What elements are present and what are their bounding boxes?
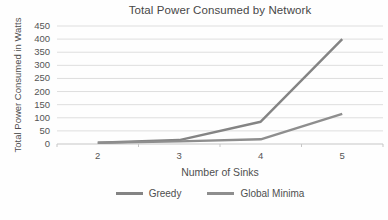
y-tick-label: 0 [22, 138, 50, 150]
plot-area [0, 0, 388, 220]
legend-item-global-minima: Global Minima [207, 188, 304, 199]
y-tick-label: 50 [22, 125, 50, 137]
legend-line-swatch-greedy [116, 192, 143, 195]
series-line-greedy [98, 39, 343, 143]
y-tick-label: 200 [22, 86, 50, 98]
y-tick-label: 350 [22, 46, 50, 58]
legend-label: Global Minima [240, 188, 304, 199]
legend-line-swatch-global-minima [207, 192, 234, 195]
y-tick-label: 450 [22, 20, 50, 32]
y-tick-label: 100 [22, 112, 50, 124]
y-tick-label: 250 [22, 72, 50, 84]
x-tick-label: 2 [95, 150, 100, 161]
y-tick-label: 300 [22, 59, 50, 71]
legend: GreedyGlobal Minima [47, 188, 373, 199]
x-tick-label: 4 [258, 150, 263, 161]
power-consumption-chart: Total Power Consumed by Network Total Po… [0, 0, 388, 220]
x-axis-title: Number of Sinks [57, 166, 383, 178]
y-tick-label: 150 [22, 99, 50, 111]
x-tick-label: 5 [340, 150, 345, 161]
legend-item-greedy: Greedy [116, 188, 182, 199]
y-tick-label: 400 [22, 33, 50, 45]
x-tick-label: 3 [177, 150, 182, 161]
legend-label: Greedy [149, 188, 182, 199]
